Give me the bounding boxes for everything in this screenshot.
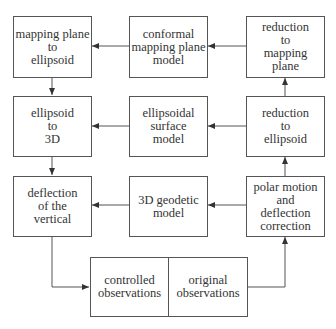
arrow-deflection-to-controlled: [52, 236, 89, 287]
node-ellipsoidal-surface-model: ellipsoidal surface model: [129, 96, 208, 157]
node-reduction-to-mapping-plane: reduction to mapping plane: [246, 16, 325, 78]
node-ellipsoid-to-3d: ellipsoid to 3D: [13, 96, 92, 157]
node-3d-geodetic-model: 3D geodetic model: [129, 176, 208, 237]
node-mapping-plane-to-ellipsoid: mapping plane to ellipsoid: [13, 16, 92, 78]
node-conformal-mapping-plane-model: conformal mapping plane model: [129, 16, 208, 78]
arrow-original-to-polar: [247, 237, 285, 287]
node-original-observations: original observations: [168, 257, 248, 317]
node-polar-motion-and-deflection-correction: polar motion and deflection correction: [246, 176, 325, 237]
node-reduction-to-ellipsoid: reduction to ellipsoid: [246, 96, 325, 157]
node-deflection-of-the-vertical: deflection of the vertical: [13, 176, 92, 237]
node-controlled-observations: controlled observations: [90, 257, 169, 317]
